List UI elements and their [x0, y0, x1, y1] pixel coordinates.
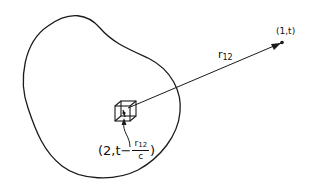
source-point-label: (2,t − r12 c )	[98, 139, 155, 161]
field-point-dot	[280, 41, 284, 45]
distance-subscript: 12	[223, 53, 233, 62]
diagram-canvas	[0, 0, 316, 188]
fraction-numerator: r12	[132, 139, 149, 151]
source-label-prefix: (2,t	[98, 143, 121, 158]
arrowhead-icon	[271, 43, 281, 50]
source-label-minus: −	[121, 143, 132, 158]
field-point-label: (1,t)	[276, 26, 295, 36]
retardation-fraction: r12 c	[132, 139, 149, 161]
r12-vector-line	[128, 43, 281, 108]
source-label-suffix: )	[150, 143, 155, 158]
fraction-denominator: c	[138, 151, 143, 161]
distance-label: r12	[218, 48, 233, 62]
retarded-potential-diagram: (1,t) r12 (2,t − r12 c )	[0, 0, 316, 188]
volume-element-cube-icon	[115, 101, 136, 121]
